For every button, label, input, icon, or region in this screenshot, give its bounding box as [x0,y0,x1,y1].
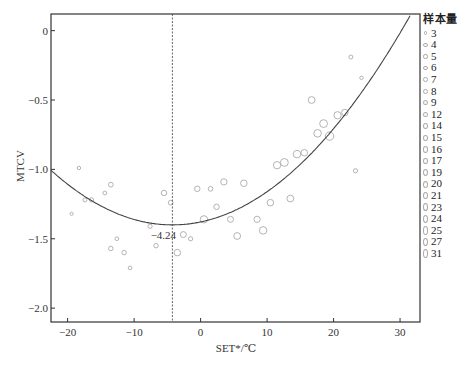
y-tick-label: −0.5 [28,94,48,106]
legend-label: 17 [431,155,442,167]
circle-marker-icon [423,169,431,176]
circle-marker-icon [423,123,431,129]
circle-marker-icon [423,100,431,105]
circle-marker-icon [423,66,431,70]
legend-item: 9 [423,97,458,109]
y-axis-title: MTCV [14,150,26,182]
data-point [308,97,315,104]
data-point [128,266,132,270]
legend-items: 345678912141516171920212324252731 [423,28,458,260]
data-point [314,130,322,138]
data-point [320,120,328,128]
legend-item: 7 [423,74,458,86]
x-axis-title: SET*/℃ [216,342,256,354]
x-tick-label: 20 [328,326,340,338]
circle-marker-icon [423,77,431,82]
circle-marker-icon [423,249,431,258]
data-point [189,237,193,241]
data-point [227,216,233,222]
data-point [161,190,167,196]
circle-marker-icon [423,43,431,47]
data-point [103,191,107,195]
fit-curve [51,16,410,225]
data-point [241,180,248,187]
circle-marker-icon [423,135,431,141]
legend-label: 9 [431,97,437,109]
data-point [287,195,294,202]
y-tick-label: 0 [43,25,49,37]
circle-marker-icon [423,203,431,211]
data-point [301,149,308,156]
legend-item: 4 [423,39,458,51]
data-point [174,249,181,256]
circle-marker-icon [423,146,431,152]
legend-item: 8 [423,86,458,98]
circle-marker-icon [423,215,431,223]
reference-line-label: −4.24 [151,229,177,241]
data-point [195,186,201,192]
x-tick-label: −20 [59,326,77,338]
data-point [353,169,357,173]
data-point [122,250,126,254]
legend-label: 21 [431,190,442,202]
circle-marker-icon [423,158,431,165]
circle-marker-icon [423,181,431,188]
y-tick-label: −1.5 [28,233,48,245]
data-point [148,224,152,228]
legend-label: 15 [431,132,442,144]
data-point [154,243,158,247]
data-point [77,166,80,169]
legend-label: 7 [431,74,437,86]
data-point [234,233,241,240]
circle-marker-icon [423,112,431,118]
legend-item: 17 [423,155,458,167]
scatter-chart: −20−100102030 0−0.5−1.0−1.5−2.0 SET*/℃ M… [0,0,466,365]
data-point [109,246,113,250]
data-point [83,198,87,202]
data-point [273,162,280,169]
quadratic-fit-line [51,16,410,225]
data-point [360,76,363,79]
legend-item: 21 [423,190,458,202]
x-tick-label: 30 [395,326,407,338]
legend-item: 24 [423,213,458,225]
circle-marker-icon [423,54,431,58]
data-point [180,232,186,238]
data-point [214,204,220,210]
y-tick-label: −2.0 [28,302,48,314]
data-point [334,112,341,119]
legend-item: 15 [423,132,458,144]
data-point [293,150,301,158]
legend-item: 31 [423,248,458,260]
circle-marker-icon [423,89,431,94]
y-tick-label: −1.0 [28,163,48,175]
plot-border [51,14,420,322]
legend: 样本量 345678912141516171920212324252731 [423,14,458,259]
legend-item: 6 [423,62,458,74]
data-point [280,159,288,167]
plot-frame [51,14,420,322]
legend-item: 3 [423,28,458,40]
x-tick-label: −10 [125,326,143,338]
data-points [70,55,363,270]
data-point [349,55,353,59]
data-point [221,179,227,185]
x-tick-label: 0 [198,326,204,338]
data-point [267,199,274,206]
circle-marker-icon [423,192,431,199]
circle-marker-icon [423,31,431,35]
legend-label: 31 [431,248,442,260]
data-point [108,182,113,187]
x-tick-label: 10 [262,326,274,338]
legend-item: 5 [423,51,458,63]
data-point [115,237,119,241]
circle-marker-icon [423,226,431,234]
x-axis-ticks: −20−100102030 [59,318,406,338]
data-point [254,216,260,222]
data-point [259,227,267,235]
circle-marker-icon [423,238,431,247]
legend-title: 样本量 [423,14,458,26]
legend-label: 24 [431,213,442,225]
data-point [208,186,213,191]
data-point [70,212,73,215]
